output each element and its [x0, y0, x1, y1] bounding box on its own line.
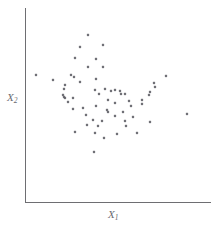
data-point: [102, 66, 104, 68]
x-axis-label: X1: [108, 209, 118, 221]
data-point: [149, 121, 151, 123]
data-point: [120, 93, 122, 95]
data-point: [141, 99, 143, 101]
plot-area: [0, 0, 218, 229]
x-axis-line: [25, 202, 211, 203]
data-point: [130, 105, 132, 107]
data-point: [95, 105, 97, 107]
data-point: [114, 102, 116, 104]
data-point: [104, 88, 106, 90]
data-point: [122, 111, 124, 113]
data-point: [70, 74, 72, 76]
data-point: [136, 132, 138, 134]
data-point: [124, 120, 126, 122]
x-axis-label-subscript: 1: [115, 213, 119, 222]
data-point: [102, 44, 104, 46]
y-axis-line: [25, 8, 26, 203]
data-point: [149, 91, 151, 93]
data-point: [82, 107, 84, 109]
scatter-plot-figure: X2 X1: [0, 0, 218, 229]
x-axis-label-base: X: [108, 208, 115, 220]
data-point: [141, 103, 143, 105]
data-point: [103, 137, 105, 139]
data-point: [128, 100, 130, 102]
data-point: [63, 88, 65, 90]
data-point: [148, 94, 150, 96]
data-point: [87, 66, 89, 68]
data-point: [72, 97, 74, 99]
data-point: [79, 46, 81, 48]
data-point: [98, 93, 100, 95]
data-point: [110, 90, 112, 92]
data-point: [114, 115, 116, 117]
y-axis-label-subscript: 2: [14, 96, 18, 105]
data-point: [153, 82, 155, 84]
data-point: [114, 89, 116, 91]
data-point: [94, 132, 96, 134]
data-point: [64, 97, 66, 99]
data-point: [116, 133, 118, 135]
data-point: [86, 124, 88, 126]
data-point: [97, 125, 99, 127]
data-point: [64, 84, 66, 86]
data-point: [67, 101, 69, 103]
data-point: [95, 58, 97, 60]
data-point: [74, 131, 76, 133]
y-axis-label-base: X: [7, 91, 14, 103]
data-point: [124, 93, 126, 95]
data-point: [186, 113, 188, 115]
data-point: [165, 75, 167, 77]
y-axis-label: X2: [7, 92, 17, 104]
data-point: [125, 125, 127, 127]
data-point: [107, 111, 109, 113]
data-point: [79, 81, 81, 83]
data-point: [132, 116, 134, 118]
data-point: [92, 119, 94, 121]
data-point: [73, 76, 75, 78]
data-point: [35, 74, 37, 76]
data-point: [93, 151, 95, 153]
data-point: [107, 99, 109, 101]
data-point: [119, 90, 121, 92]
data-point: [154, 86, 156, 88]
data-point: [85, 114, 87, 116]
data-point: [72, 108, 74, 110]
data-point: [52, 79, 54, 81]
data-point: [101, 120, 103, 122]
data-point: [94, 89, 96, 91]
data-point: [95, 78, 97, 80]
data-point: [74, 57, 76, 59]
data-point: [87, 34, 89, 36]
